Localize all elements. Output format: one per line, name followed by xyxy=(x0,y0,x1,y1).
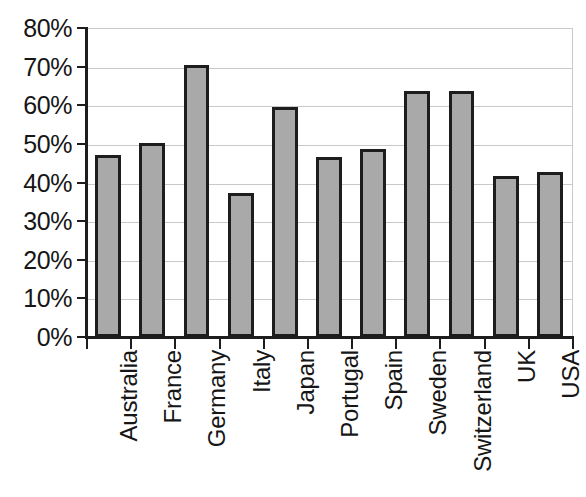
y-axis-tick-mark xyxy=(77,104,86,106)
x-axis-tick-mark xyxy=(484,338,486,349)
x-axis-label-switzerland: Switzerland xyxy=(471,350,495,472)
x-axis-label-uk: UK xyxy=(515,350,539,383)
x-axis-line xyxy=(85,336,574,339)
y-axis-tick-label: 0% xyxy=(37,325,72,350)
bar-sweden xyxy=(404,91,430,337)
x-axis-label-spain: Spain xyxy=(382,350,406,410)
x-axis-tick-mark xyxy=(307,338,309,349)
x-axis-tick-mark xyxy=(351,338,353,349)
y-axis-tick-label: 10% xyxy=(23,286,72,311)
y-axis-tick-label: 70% xyxy=(23,54,72,79)
y-axis-tick-label: 30% xyxy=(23,209,72,234)
x-axis-label-portugal: Portugal xyxy=(338,350,362,438)
bar-usa xyxy=(537,172,563,337)
x-axis-tick-mark xyxy=(130,338,132,349)
x-axis-tick-mark xyxy=(572,338,574,349)
bar-germany xyxy=(184,65,210,337)
x-axis-tick-mark xyxy=(528,338,530,349)
y-axis-tick-mark xyxy=(77,182,86,184)
y-axis-tick-label: 20% xyxy=(23,247,72,272)
bars-layer xyxy=(86,28,572,337)
y-axis-tick-label: 80% xyxy=(23,16,72,41)
bar-portugal xyxy=(316,157,342,337)
x-axis-labels: AustraliaFranceGermanyItalyJapanPortugal… xyxy=(86,350,572,497)
x-axis-tick-mark xyxy=(263,338,265,349)
x-axis-label-germany: Germany xyxy=(205,350,229,447)
y-axis-tick-mark xyxy=(77,336,86,338)
y-axis-tick-mark xyxy=(77,259,86,261)
x-axis-label-france: France xyxy=(161,350,185,424)
y-axis-labels: 0%10%20%30%40%50%60%70%80% xyxy=(0,0,78,360)
x-axis-label-sweden: Sweden xyxy=(426,350,450,436)
x-axis-label-australia: Australia xyxy=(117,350,141,442)
x-axis-tick-mark xyxy=(86,338,88,349)
y-axis-tick-mark xyxy=(77,143,86,145)
x-axis-tick-mark xyxy=(219,338,221,349)
y-axis-tick-mark xyxy=(77,297,86,299)
x-axis-tick-mark xyxy=(395,338,397,349)
y-axis-tick-mark xyxy=(77,66,86,68)
y-axis-tick-label: 60% xyxy=(23,93,72,118)
x-axis-label-japan: Japan xyxy=(294,350,318,414)
bar-spain xyxy=(360,149,386,337)
bar-switzerland xyxy=(449,91,475,337)
y-axis-tick-mark xyxy=(77,27,86,29)
bar-australia xyxy=(95,155,121,337)
bar-italy xyxy=(228,193,254,337)
bar-france xyxy=(139,143,165,337)
y-axis-tick-label: 40% xyxy=(23,170,72,195)
x-axis-label-usa: USA xyxy=(559,350,583,399)
y-axis-tick-mark xyxy=(77,220,86,222)
bar-chart-figure: 0%10%20%30%40%50%60%70%80% AustraliaFran… xyxy=(0,0,586,497)
x-axis-tick-mark xyxy=(174,338,176,349)
x-axis-label-italy: Italy xyxy=(250,350,274,393)
x-axis-tick-mark xyxy=(439,338,441,349)
y-axis-tick-label: 50% xyxy=(23,131,72,156)
bar-uk xyxy=(493,176,519,337)
bar-japan xyxy=(272,107,298,337)
